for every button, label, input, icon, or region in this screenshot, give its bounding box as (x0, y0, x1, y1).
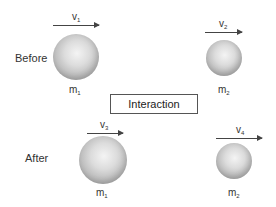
sphere-m2-before (206, 40, 242, 76)
sphere-m2-after (216, 143, 252, 179)
velocity-label-v3: v3 (100, 119, 108, 131)
velocity-label-v2: v2 (219, 18, 227, 30)
velocity-label-v4: v4 (236, 124, 244, 136)
after-label: After (25, 152, 48, 164)
mass-label-m1-after: m1 (96, 187, 108, 199)
sphere-m1-after (79, 136, 127, 184)
velocity-arrow-v2 (205, 32, 242, 33)
velocity-arrow-v4 (216, 138, 262, 139)
before-label: Before (15, 52, 47, 64)
interaction-box: Interaction (110, 94, 198, 114)
mass-label-m2-after: m2 (228, 187, 240, 199)
sphere-m1-before (53, 34, 99, 80)
velocity-arrow-v3 (87, 133, 123, 134)
velocity-arrow-v1 (53, 25, 99, 26)
mass-label-m2-before: m2 (218, 84, 230, 96)
mass-label-m1-before: m1 (69, 84, 81, 96)
velocity-label-v1: v1 (72, 11, 80, 23)
